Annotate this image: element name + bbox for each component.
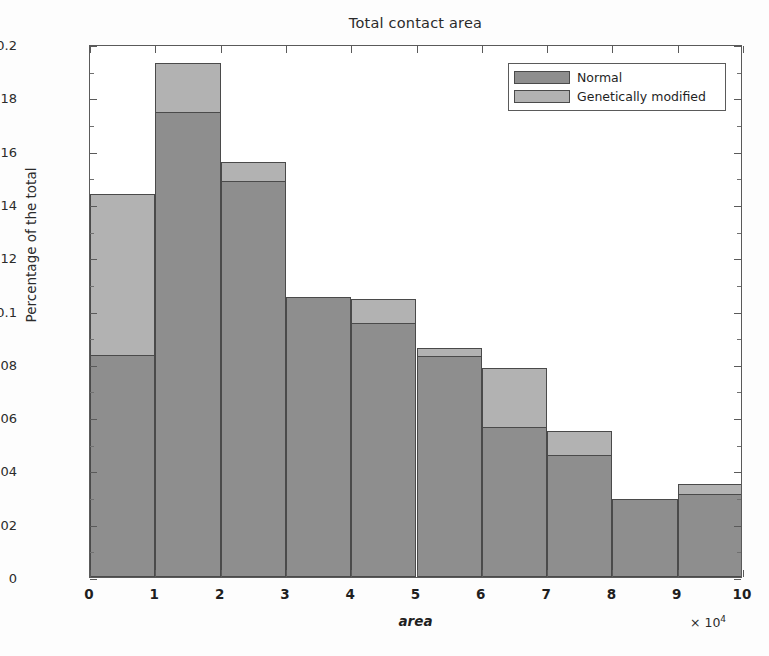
x-axis-tick-label: 7 <box>526 586 566 602</box>
x-axis-tick <box>155 570 156 577</box>
y-axis-minor-tick <box>737 286 741 287</box>
y-axis-minor-tick <box>90 233 94 234</box>
legend-item-genetically-modified[interactable]: Genetically modified <box>514 87 720 106</box>
y-axis-minor-tick <box>737 73 741 74</box>
y-axis-tick <box>734 579 741 580</box>
x-axis-tick-label: 6 <box>461 586 501 602</box>
bar-group <box>90 46 155 577</box>
y-axis-tick <box>734 366 741 367</box>
chart-legend: Normal Genetically modified <box>508 63 726 111</box>
bar-normal[interactable] <box>417 356 482 577</box>
y-axis-minor-tick <box>90 179 94 180</box>
bar-group <box>351 46 416 577</box>
legend-swatch-genetically-modified <box>514 90 570 103</box>
legend-item-normal[interactable]: Normal <box>514 68 720 87</box>
y-axis-minor-tick <box>90 392 94 393</box>
x-axis-tick <box>547 570 548 577</box>
bar-group <box>417 46 482 577</box>
bar-normal[interactable] <box>155 112 220 577</box>
x-axis-tick-label: 5 <box>396 586 436 602</box>
y-axis-minor-tick <box>90 126 94 127</box>
y-axis-tick <box>90 259 97 260</box>
y-axis-tick <box>90 206 97 207</box>
y-axis-tick-label: 0 <box>0 571 17 586</box>
figure-canvas: Total contact area Normal Genetically mo… <box>0 0 769 656</box>
y-axis-minor-tick <box>737 446 741 447</box>
x-axis-tick <box>351 570 352 577</box>
y-axis-tick-label: 0.1 <box>0 304 17 319</box>
bar-group <box>678 46 741 577</box>
x-axis-tick-label: 8 <box>591 586 631 602</box>
y-axis-tick-label: 0.06 <box>0 411 17 426</box>
y-axis-tick <box>734 313 741 314</box>
y-axis-minor-tick <box>737 179 741 180</box>
x-axis-multiplier: × 104 <box>690 614 726 630</box>
y-axis-tick-label: 0.14 <box>0 197 17 212</box>
bar-normal[interactable] <box>612 499 677 577</box>
y-axis-minor-tick <box>737 392 741 393</box>
y-axis-minor-tick <box>737 499 741 500</box>
y-axis-tick <box>734 419 741 420</box>
y-axis-tick <box>90 472 97 473</box>
x-axis-tick <box>743 46 744 53</box>
bar-group <box>221 46 286 577</box>
legend-label-normal: Normal <box>577 70 622 85</box>
y-axis-tick-label: 0.16 <box>0 144 17 159</box>
x-axis-tick-label: 3 <box>265 586 305 602</box>
y-axis-title: Percentage of the total <box>23 15 39 475</box>
y-axis-tick <box>90 579 97 580</box>
bar-normal[interactable] <box>351 323 416 577</box>
y-axis-tick-label: 0.04 <box>0 464 17 479</box>
y-axis-minor-tick <box>737 552 741 553</box>
y-axis-tick <box>90 99 97 100</box>
x-axis-tick <box>547 46 548 53</box>
bar-normal[interactable] <box>678 494 741 577</box>
y-axis-minor-tick <box>90 446 94 447</box>
x-axis-title: area <box>89 613 742 629</box>
legend-label-genetically-modified: Genetically modified <box>577 89 706 104</box>
x-axis-tick <box>678 46 679 53</box>
page-title: Total contact area <box>89 15 742 31</box>
y-axis-tick <box>734 259 741 260</box>
x-axis-tick <box>90 570 91 577</box>
x-axis-tick <box>286 570 287 577</box>
x-axis-tick <box>612 570 613 577</box>
y-axis-tick <box>734 99 741 100</box>
bar-normal[interactable] <box>90 355 155 577</box>
bar-normal[interactable] <box>482 427 547 577</box>
x-axis-tick <box>221 46 222 53</box>
x-axis-tick <box>417 46 418 53</box>
y-axis-tick-label: 0.02 <box>0 517 17 532</box>
bar-normal[interactable] <box>547 455 612 577</box>
x-axis-tick-label: 0 <box>69 586 109 602</box>
x-axis-tick-label: 9 <box>657 586 697 602</box>
x-axis-tick-label: 1 <box>134 586 174 602</box>
x-axis-tick-label: 4 <box>330 586 370 602</box>
x-axis-tick <box>90 46 91 53</box>
x-axis-tick-label: 2 <box>200 586 240 602</box>
x-axis-tick <box>678 570 679 577</box>
y-axis-tick <box>90 46 97 47</box>
y-axis-minor-tick <box>90 499 94 500</box>
bar-normal[interactable] <box>221 181 286 577</box>
y-axis-minor-tick <box>90 339 94 340</box>
bar-normal[interactable] <box>286 297 351 577</box>
y-axis-tick <box>90 419 97 420</box>
y-axis-tick <box>90 153 97 154</box>
y-axis-minor-tick <box>90 286 94 287</box>
x-axis-tick <box>482 570 483 577</box>
y-axis-minor-tick <box>737 233 741 234</box>
y-axis-tick-label: 0.2 <box>0 38 17 53</box>
y-axis-tick <box>90 526 97 527</box>
x-axis-tick <box>155 46 156 53</box>
y-axis-minor-tick <box>737 126 741 127</box>
bar-group <box>547 46 612 577</box>
y-axis-tick-label: 0.12 <box>0 251 17 266</box>
y-axis-tick-label: 0.08 <box>0 357 17 372</box>
x-axis-tick-label: 10 <box>722 586 762 602</box>
x-axis-tick <box>743 570 744 577</box>
plot-box: Normal Genetically modified <box>89 45 742 578</box>
bar-group <box>286 46 351 577</box>
x-axis-tick <box>286 46 287 53</box>
y-axis-tick <box>734 206 741 207</box>
